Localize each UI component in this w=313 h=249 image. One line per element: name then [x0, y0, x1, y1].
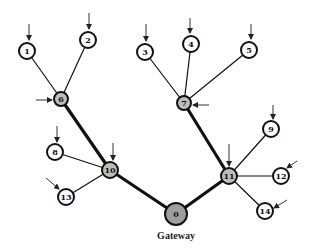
- nodes: 01234567891011121314: [19, 32, 289, 225]
- edge-6-10: [61, 99, 110, 170]
- node-12: 12: [273, 168, 289, 184]
- arrow-icon: [46, 178, 59, 189]
- node-label: 10: [104, 165, 116, 175]
- node-10: 10: [102, 162, 118, 178]
- node-label: 5: [246, 45, 252, 55]
- node-1: 1: [19, 43, 35, 59]
- edges: [27, 40, 281, 214]
- node-7: 7: [177, 96, 191, 110]
- node-label: 3: [142, 47, 148, 57]
- node-label: 1: [24, 46, 30, 56]
- network-tree-diagram: 01234567891011121314 Gateway: [0, 0, 313, 249]
- node-label: 13: [60, 192, 72, 202]
- node-label: 14: [259, 206, 271, 216]
- edge-5-7: [184, 50, 249, 103]
- node-11: 11: [221, 168, 237, 184]
- edge-7-11: [184, 103, 229, 176]
- edge-3-7: [145, 52, 184, 103]
- node-13: 13: [58, 189, 74, 205]
- node-label: 11: [223, 171, 234, 181]
- node-3: 3: [137, 44, 153, 60]
- node-label: 2: [85, 35, 91, 45]
- node-5: 5: [241, 42, 257, 58]
- node-label: 9: [268, 124, 274, 134]
- edge-9-11: [229, 129, 271, 176]
- node-0: 0: [165, 203, 187, 225]
- node-8: 8: [47, 144, 63, 160]
- arrow-icon: [287, 161, 297, 168]
- node-label: 12: [275, 171, 286, 181]
- node-2: 2: [80, 32, 96, 48]
- node-14: 14: [257, 203, 273, 219]
- node-6: 6: [54, 92, 68, 106]
- node-label: 4: [188, 39, 194, 49]
- node-9: 9: [263, 121, 279, 137]
- node-label: 8: [52, 147, 58, 157]
- node-label: 6: [58, 94, 64, 104]
- node-label: 0: [173, 209, 179, 219]
- edge-2-6: [61, 40, 88, 99]
- node-label: 7: [181, 98, 187, 108]
- node-4: 4: [183, 36, 199, 52]
- gateway-label: Gateway: [157, 230, 195, 241]
- arrow-icon: [274, 200, 287, 208]
